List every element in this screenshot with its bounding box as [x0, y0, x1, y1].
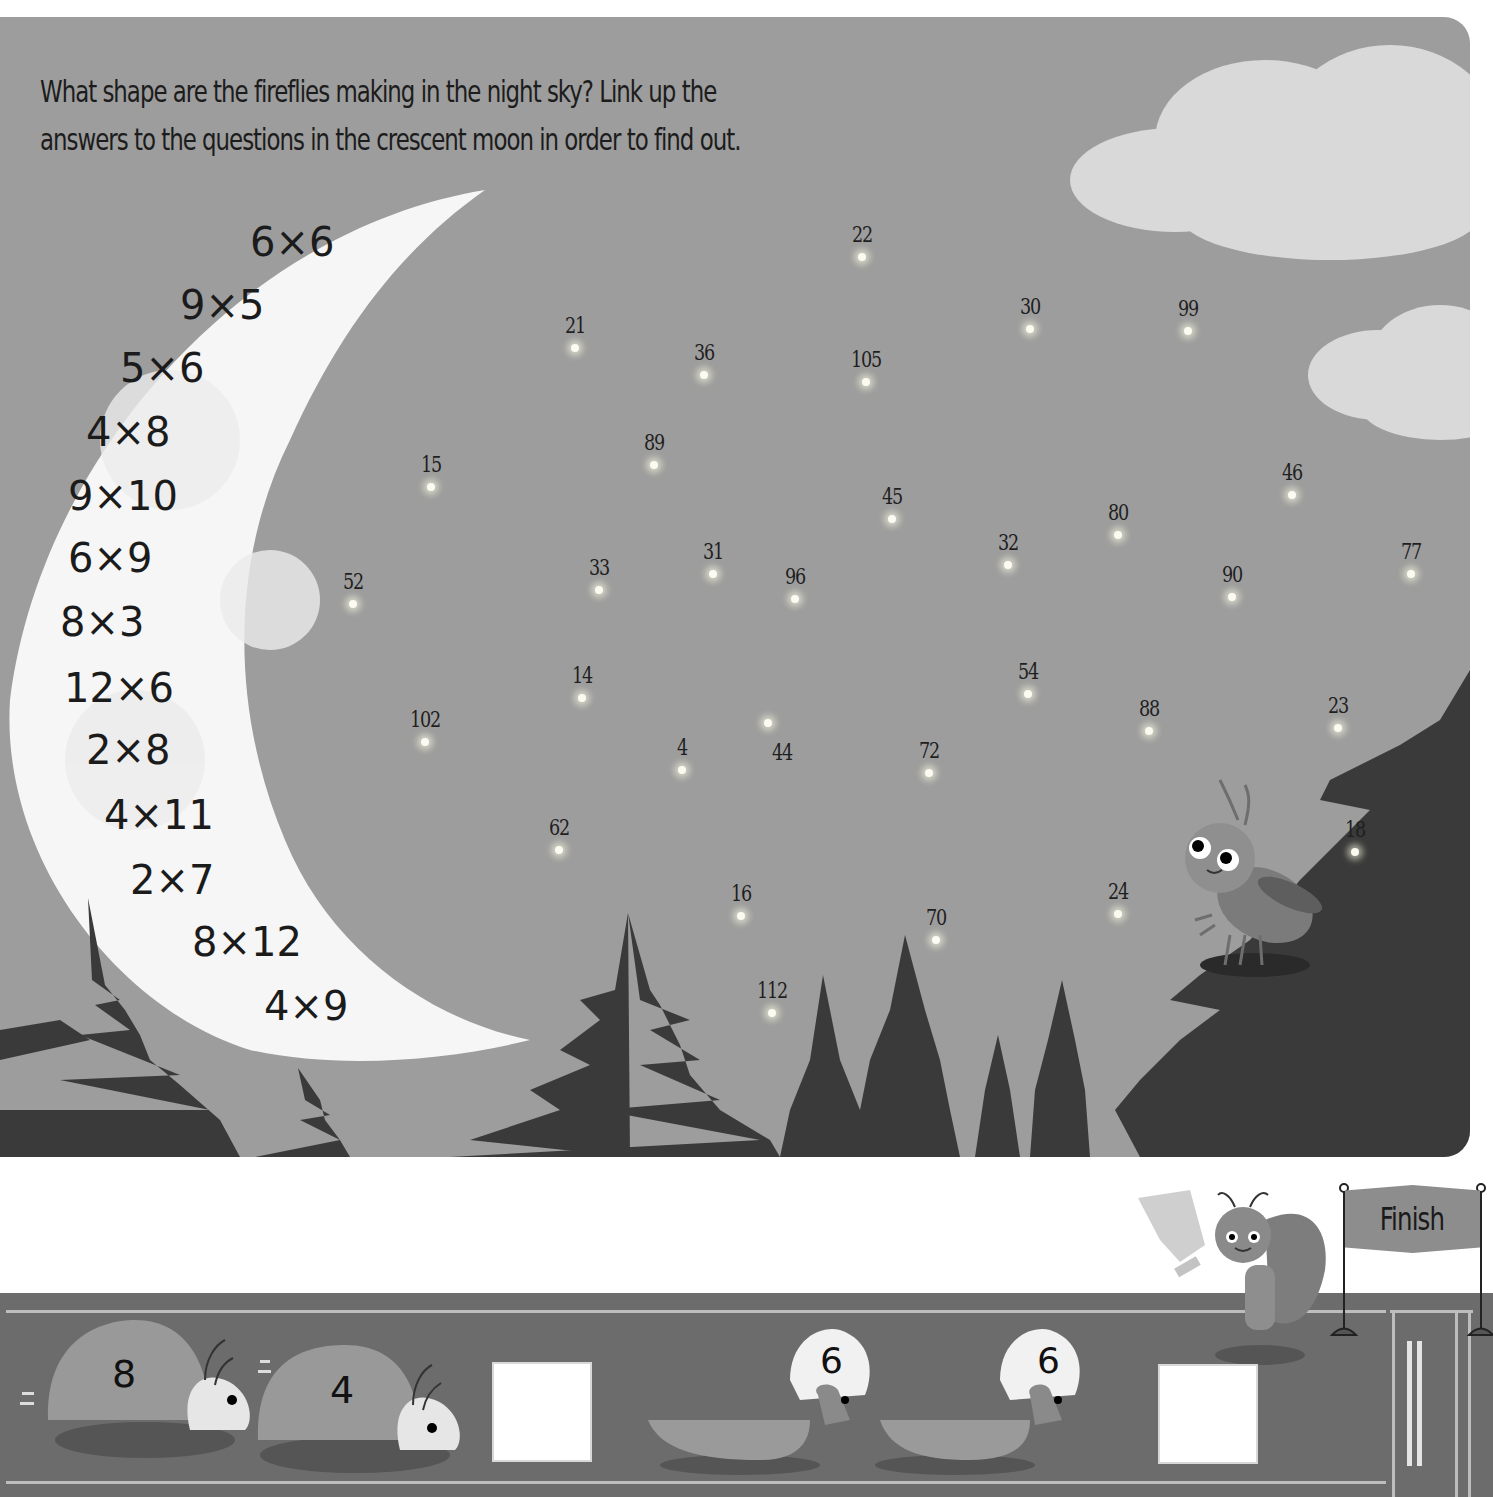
- glow-dot-icon: [709, 570, 717, 578]
- firefly-number: 21: [565, 313, 585, 338]
- glow-dot-icon: [1024, 690, 1032, 698]
- firefly-number: 46: [1282, 460, 1302, 485]
- firefly-number: 18: [1345, 817, 1365, 842]
- moon-question: 4×9: [264, 986, 348, 1026]
- glow-dot-icon: [1184, 327, 1192, 335]
- answer-box-1[interactable]: [492, 1362, 592, 1462]
- glow-dot-icon: [578, 694, 586, 702]
- glow-dot-icon: [555, 846, 563, 854]
- glow-dot-icon: [571, 344, 579, 352]
- firefly-number: 45: [882, 484, 902, 509]
- firefly-number: 72: [919, 738, 939, 763]
- firefly-number: 32: [998, 530, 1018, 555]
- moon-question: 9×5: [180, 285, 264, 325]
- moon-question: 2×7: [130, 860, 214, 900]
- answer-box-2[interactable]: [1158, 1364, 1258, 1464]
- firefly-number: 88: [1139, 696, 1159, 721]
- glow-dot-icon: [1004, 561, 1012, 569]
- beetle-racer-2-icon: [258, 1345, 460, 1473]
- moon-question: 5×6: [120, 348, 204, 388]
- glow-dot-icon: [858, 253, 866, 261]
- firefly-number: 89: [644, 430, 664, 455]
- glow-dot-icon: [1145, 727, 1153, 735]
- glow-dot-icon: [1334, 724, 1342, 732]
- firefly-number: 23: [1328, 693, 1348, 718]
- moon-question: 6×6: [250, 222, 334, 262]
- glow-dot-icon: [1026, 325, 1034, 333]
- caterpillar-2-helmet-number: 6: [1037, 1340, 1060, 1381]
- firefly-number: 96: [785, 564, 805, 589]
- instructions-line-1: What shape are the fireflies making in t…: [40, 67, 778, 115]
- beetle-2-number: 4: [330, 1368, 354, 1412]
- firefly-number: 31: [703, 539, 723, 564]
- firefly-number: 24: [1108, 879, 1128, 904]
- glow-dot-icon: [764, 719, 772, 727]
- firefly-number: 80: [1108, 500, 1128, 525]
- firefly-number: 112: [757, 978, 787, 1003]
- firefly-number: 14: [572, 663, 592, 688]
- firefly-number: 52: [343, 569, 363, 594]
- glow-dot-icon: [925, 769, 933, 777]
- finish-label: Finish: [1361, 1200, 1463, 1238]
- moon-question: 6×9: [68, 538, 152, 578]
- glow-dot-icon: [737, 912, 745, 920]
- glow-dot-icon: [349, 600, 357, 608]
- moon-question: 9×10: [68, 476, 178, 516]
- instructions-line-2: answers to the questions in the crescent…: [40, 115, 778, 163]
- firefly-number: 54: [1018, 659, 1038, 684]
- glow-dot-icon: [791, 595, 799, 603]
- glow-dot-icon: [888, 515, 896, 523]
- firefly-number: 105: [851, 347, 881, 372]
- glow-dot-icon: [768, 1009, 776, 1017]
- glow-dot-icon: [421, 738, 429, 746]
- firefly-number: 22: [852, 222, 872, 247]
- glow-dot-icon: [1288, 491, 1296, 499]
- caterpillar-1-helmet-number: 6: [820, 1340, 843, 1381]
- glow-dot-icon: [700, 371, 708, 379]
- glow-dot-icon: [1114, 531, 1122, 539]
- glow-dot-icon: [678, 766, 686, 774]
- firefly-number: 62: [549, 815, 569, 840]
- firefly-number: 15: [421, 452, 441, 477]
- firefly-number: 33: [589, 555, 609, 580]
- firefly-number: 36: [694, 340, 714, 365]
- moon-question: 4×11: [104, 795, 214, 835]
- moon-question: 8×3: [60, 602, 144, 642]
- glow-dot-icon: [1351, 848, 1359, 856]
- firefly-number: 70: [926, 905, 946, 930]
- firefly-number: 99: [1178, 296, 1198, 321]
- glow-dot-icon: [595, 586, 603, 594]
- glow-dot-icon: [650, 461, 658, 469]
- scene-illustration: [0, 17, 1470, 1157]
- firefly-number: 44: [772, 740, 792, 765]
- race-characters: [0, 1150, 1493, 1497]
- glow-dot-icon: [932, 936, 940, 944]
- firefly-number: 90: [1222, 562, 1242, 587]
- firefly-number: 16: [731, 881, 751, 906]
- moon-question: 4×8: [86, 412, 170, 452]
- firefly-number: 30: [1020, 294, 1040, 319]
- night-sky-panel: What shape are the fireflies making in t…: [0, 17, 1470, 1157]
- glow-dot-icon: [862, 378, 870, 386]
- beetle-1-number: 8: [112, 1352, 136, 1396]
- firefly-number: 102: [410, 707, 440, 732]
- cloud-large-icon: [1070, 45, 1470, 260]
- glow-dot-icon: [1114, 910, 1122, 918]
- glow-dot-icon: [1407, 570, 1415, 578]
- firefly-number: 77: [1401, 539, 1421, 564]
- moon-question: 2×8: [86, 730, 170, 770]
- glow-dot-icon: [427, 483, 435, 491]
- firefly-number: 4: [677, 735, 687, 760]
- glow-dot-icon: [1228, 593, 1236, 601]
- instructions-text: What shape are the fireflies making in t…: [40, 67, 778, 163]
- moon-question: 12×6: [64, 668, 174, 708]
- moon-question: 8×12: [192, 922, 302, 962]
- cloud-small-icon: [1308, 305, 1470, 440]
- butterfly-winner-icon: [1215, 1193, 1326, 1365]
- trophy-icon: [1138, 1190, 1205, 1277]
